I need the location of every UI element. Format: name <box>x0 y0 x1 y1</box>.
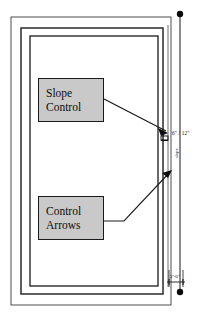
callout-label-line-1: Slope <box>46 86 103 100</box>
slope-word-label: slope <box>174 148 179 158</box>
slope-ratio-label: 6" / 12" <box>172 130 190 136</box>
callout-label-line-2: Arrows <box>46 218 103 232</box>
callout-box-slope-control[interactable]: Slope Control <box>38 78 104 122</box>
drawing-canvas: Slope Control Control Arrows 6" / 12" sl… <box>0 0 197 321</box>
leader-line-slope-control <box>104 99 166 131</box>
bottom-dimension-label: 2'-6" <box>170 274 180 279</box>
slope-control-symbol <box>161 136 168 140</box>
middle-rectangle <box>21 28 163 294</box>
outer-rectangle <box>11 17 171 305</box>
callout-box-control-arrows[interactable]: Control Arrows <box>38 196 104 240</box>
drawing-vector-layer <box>0 0 197 321</box>
dimension-endpoint-dot-top <box>177 11 183 17</box>
leader-line-control-arrows <box>104 172 170 221</box>
callout-label-line-2: Control <box>46 100 103 114</box>
inner-rectangle <box>30 36 158 286</box>
callout-label-line-1: Control <box>46 204 103 218</box>
dimension-endpoint-dot-bottom <box>177 289 183 295</box>
